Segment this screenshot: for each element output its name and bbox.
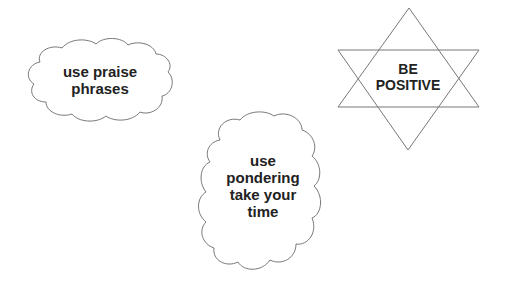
pondering-cloud-line-3: take your [213, 186, 313, 203]
pondering-cloud-label: use pondering take your time [213, 152, 313, 220]
praise-cloud-line-2: phrases [40, 80, 160, 97]
praise-cloud-line-1: use praise [40, 63, 160, 80]
positive-star-label: BE POSITIVE [358, 61, 458, 93]
praise-cloud-label: use praise phrases [40, 63, 160, 97]
pondering-cloud-line-1: use [213, 152, 313, 169]
positive-star-line-2: POSITIVE [358, 77, 458, 93]
pondering-cloud-line-2: pondering [213, 169, 313, 186]
positive-star-line-1: BE [358, 61, 458, 77]
pondering-cloud-line-4: time [213, 203, 313, 220]
diagram-canvas [0, 0, 507, 287]
